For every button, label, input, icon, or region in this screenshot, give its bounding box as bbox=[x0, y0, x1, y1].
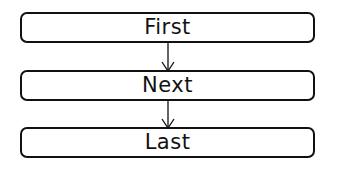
node-label: Last bbox=[145, 132, 191, 153]
node-last: Last bbox=[20, 127, 315, 158]
arrow-first-to-next bbox=[162, 43, 174, 71]
node-first: First bbox=[20, 12, 315, 43]
node-label: Next bbox=[142, 75, 193, 96]
arrow-next-to-last bbox=[162, 101, 174, 128]
node-label: First bbox=[144, 17, 191, 38]
node-next: Next bbox=[20, 70, 315, 101]
